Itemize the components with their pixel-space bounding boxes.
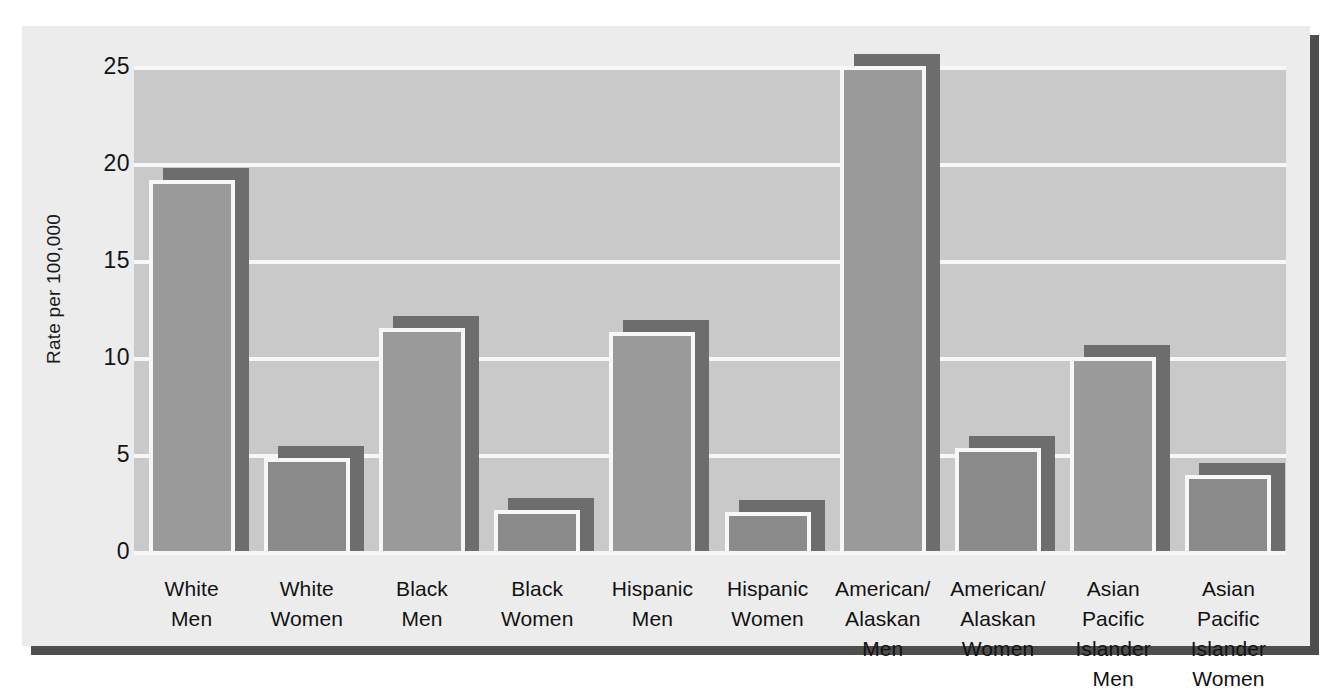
x-axis-category-label-line: Women (940, 634, 1055, 664)
bar[interactable] (1070, 66, 1156, 551)
x-axis-category-label-line: Men (364, 604, 479, 634)
x-axis-category-label: HispanicMen (595, 574, 710, 634)
y-axis-tick-label: 15 (103, 247, 130, 274)
x-axis-category-label-line: Alaskan (825, 604, 940, 634)
bar-body[interactable] (1185, 475, 1271, 551)
bar-body[interactable] (264, 458, 350, 551)
x-axis-category-label-line: Hispanic (595, 574, 710, 604)
x-axis-category-label-line: Asian Pacific (1056, 574, 1171, 634)
x-axis-category-label: HispanicWomen (710, 574, 825, 634)
x-axis-category-label: American/AlaskanMen (825, 574, 940, 664)
bar[interactable] (725, 66, 811, 551)
bar-body[interactable] (955, 448, 1041, 551)
x-axis-category-label-line: American/ (825, 574, 940, 604)
y-axis-title: Rate per 100,000 (43, 139, 65, 439)
bar-body[interactable] (379, 328, 465, 551)
x-axis-category-label: BlackMen (364, 574, 479, 634)
x-axis-category-label-line: Men (134, 604, 249, 634)
bar[interactable] (609, 66, 695, 551)
x-axis-category-label: WhiteWomen (249, 574, 364, 634)
bar[interactable] (149, 66, 235, 551)
bar[interactable] (955, 66, 1041, 551)
bar-body[interactable] (494, 510, 580, 551)
bar-body[interactable] (1070, 357, 1156, 551)
x-axis-category-label-line: Men (595, 604, 710, 634)
x-axis-category-label-line: Islander (1171, 634, 1286, 664)
x-axis-category-label: WhiteMen (134, 574, 249, 634)
y-axis-tick-label: 5 (117, 441, 130, 468)
bar-body[interactable] (840, 66, 926, 551)
x-axis-category-label-line: White (249, 574, 364, 604)
x-axis-category-label-line: Women (710, 604, 825, 634)
chart-panel: Rate per 100,000 0510152025 WhiteMenWhit… (22, 26, 1310, 646)
bar[interactable] (379, 66, 465, 551)
x-axis-category-label-line: Men (1056, 664, 1171, 693)
bar[interactable] (494, 66, 580, 551)
bar-body[interactable] (725, 512, 811, 551)
x-axis-category-label-line: Women (1171, 664, 1286, 693)
x-axis-category-label-line: Black (480, 574, 595, 604)
x-axis-category-label: Asian PacificIslanderWomen (1171, 574, 1286, 693)
x-axis-category-label-line: Islander (1056, 634, 1171, 664)
bar-chart: Rate per 100,000 0510152025 WhiteMenWhit… (22, 26, 1310, 646)
bar-body[interactable] (609, 332, 695, 551)
bar[interactable] (264, 66, 350, 551)
y-axis-tick-label: 0 (117, 538, 130, 565)
x-axis-category-label-line: Men (825, 634, 940, 664)
plot-region (134, 66, 1286, 551)
y-axis-tick-labels: 0510152025 (84, 40, 130, 560)
y-axis-tick-label: 10 (103, 344, 130, 371)
x-axis-category-label: American/AlaskanWomen (940, 574, 1055, 664)
x-axis-category-label: BlackWomen (480, 574, 595, 634)
axis-baseline (134, 551, 1286, 555)
bar[interactable] (840, 66, 926, 551)
x-axis-category-label-line: White (134, 574, 249, 604)
x-axis-category-label-line: Black (364, 574, 479, 604)
x-axis-category-label: Asian PacificIslanderMen (1056, 574, 1171, 693)
bars-layer (134, 66, 1286, 551)
bar-body[interactable] (149, 180, 235, 551)
y-axis-tick-label: 20 (103, 150, 130, 177)
x-axis-category-labels: WhiteMenWhiteWomenBlackMenBlackWomenHisp… (134, 574, 1286, 684)
x-axis-category-label-line: Asian Pacific (1171, 574, 1286, 634)
x-axis-category-label-line: Women (249, 604, 364, 634)
y-axis-tick-label: 25 (103, 53, 130, 80)
bar[interactable] (1185, 66, 1271, 551)
x-axis-category-label-line: Hispanic (710, 574, 825, 604)
x-axis-category-label-line: Alaskan (940, 604, 1055, 634)
x-axis-category-label-line: American/ (940, 574, 1055, 604)
x-axis-category-label-line: Women (480, 604, 595, 634)
